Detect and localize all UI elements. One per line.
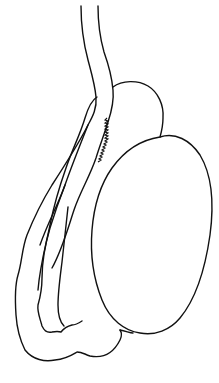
testis-outline <box>91 136 211 334</box>
anatomy-line-drawing <box>0 0 219 383</box>
epididymis-outer-contour <box>15 125 121 361</box>
epididymis-head-outline <box>113 82 163 137</box>
ductus-deferens <box>58 207 68 326</box>
epididymis-serrated-line <box>98 118 108 162</box>
